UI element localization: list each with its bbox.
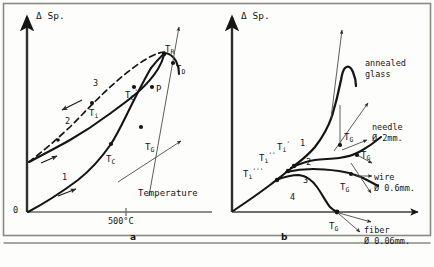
annotation-fiber: fiber Ø 0.06mm. bbox=[364, 225, 410, 246]
marker-a-P bbox=[150, 85, 154, 89]
figure-container: Δ Sp. Temperature 500°C 0 1 2 3 TR TD P … bbox=[0, 0, 434, 267]
panel-a-label-TG: TG bbox=[145, 142, 154, 154]
panel-b-curve-label-1: 1 bbox=[300, 138, 305, 148]
panel-a-label-Ti: Ti bbox=[89, 108, 98, 120]
panel-a-label-TC-sub: C bbox=[111, 158, 115, 166]
marker-a-Ti bbox=[90, 101, 94, 105]
annotation-wire: wire Ø 0.6mm. bbox=[374, 172, 415, 193]
marker-a-TD bbox=[171, 61, 175, 65]
panel-a-xtick-500c: 500°C bbox=[108, 216, 134, 226]
panel-b-label-TG-wire-sub: G bbox=[345, 186, 349, 194]
panel-b-label-TG-wire: TG bbox=[340, 182, 349, 194]
curve-b-1 bbox=[294, 67, 356, 166]
panel-a-curve-label-1: 1 bbox=[62, 172, 67, 182]
marker-b-Tip bbox=[292, 164, 296, 168]
annotation-wire-line1: wire bbox=[374, 172, 415, 183]
annotation-annealed-glass-line1: annealed bbox=[365, 58, 406, 69]
annotation-needle-line2: Ø 2mm. bbox=[372, 133, 403, 144]
panel-b-label-TG-annealed-sub: G bbox=[349, 136, 353, 144]
panel-a-label-TD: TD bbox=[176, 64, 185, 76]
panel-b-label-Tiprime-primes: ' bbox=[286, 140, 290, 148]
marker-a-TC bbox=[109, 142, 113, 146]
panel-a-curves bbox=[28, 27, 181, 212]
panel-b-curve-label-4: 4 bbox=[290, 192, 295, 202]
marker-b-TG-wire bbox=[349, 172, 353, 176]
annotation-fiber-line2: Ø 0.06mm. bbox=[364, 236, 410, 247]
annotation-fiber-line1: fiber bbox=[364, 225, 410, 236]
panel-a-label-TCprime: TC' bbox=[125, 88, 138, 102]
annotation-annealed-glass: annealed glass bbox=[365, 58, 406, 79]
callout-wire-b bbox=[351, 163, 371, 193]
panel-b-label-Tidoubleprime: Ti'' bbox=[259, 151, 276, 165]
annotation-needle-line1: needle bbox=[372, 122, 403, 133]
panel-a-label-TCprime-primes: ' bbox=[134, 88, 138, 96]
panel-a-label-P-base: P bbox=[156, 84, 161, 94]
panel-a-axes bbox=[27, 17, 212, 216]
panel-b-label-Tiprime: Ti' bbox=[277, 140, 290, 154]
annotation-needle: needle Ø 2mm. bbox=[372, 122, 403, 143]
panel-a-x-axis-label: Temperature bbox=[138, 188, 198, 198]
panel-a-y-axis-label: Δ Sp. bbox=[36, 10, 65, 21]
marker-b-TG-annealed bbox=[338, 143, 342, 147]
marker-a-curve2-tick bbox=[56, 138, 60, 142]
marker-b-TG-needle bbox=[355, 153, 359, 157]
panel-a-curve-label-2: 2 bbox=[65, 116, 70, 126]
panel-a-label-Ti-sub: i bbox=[94, 112, 98, 120]
callout-fiber-b bbox=[339, 214, 360, 232]
annotation-annealed-glass-line2: glass bbox=[365, 69, 406, 80]
marker-b-TG-fiber bbox=[335, 210, 340, 215]
panel-b-letter: b bbox=[281, 232, 287, 242]
panel-b-y-axis-label: Δ Sp. bbox=[241, 10, 270, 21]
panel-b-label-Tidoubleprime-primes: '' bbox=[268, 151, 275, 159]
panel-a-label-TD-sub: D bbox=[181, 68, 185, 76]
panel-b-label-TG-needle-sub: G bbox=[366, 154, 370, 162]
panel-a-curve-label-3: 3 bbox=[93, 78, 98, 88]
annotation-wire-line2: Ø 0.6mm. bbox=[374, 183, 415, 194]
panel-b-extrapolation-arrow bbox=[331, 30, 342, 118]
callout-fiber-a bbox=[339, 213, 371, 222]
panel-b-label-TG-fiber: TG bbox=[329, 221, 338, 233]
panel-b-curve-label-3: 3 bbox=[303, 175, 308, 185]
panel-a-letter: a bbox=[130, 232, 136, 242]
panel-b-label-Titripleprime: Ti''' bbox=[243, 167, 263, 181]
panel-a-label-TR-sub: R bbox=[170, 48, 174, 56]
panel-b-label-Titripleprime-primes: ''' bbox=[252, 167, 263, 175]
panel-b-label-TG-needle: TG bbox=[361, 150, 370, 162]
panel-b-label-TG-fiber-sub: G bbox=[334, 225, 338, 233]
panel-a-markers bbox=[56, 52, 175, 146]
marker-a-TG bbox=[139, 125, 143, 129]
panel-a-label-TR: TR bbox=[165, 44, 174, 56]
marker-b-Tipp bbox=[286, 169, 290, 173]
panel-b-curve-label-2: 2 bbox=[306, 157, 311, 167]
panel-b-label-TG-annealed: TG bbox=[344, 132, 353, 144]
panel-a-origin-label: 0 bbox=[13, 205, 18, 215]
marker-b-Tippp bbox=[275, 178, 279, 182]
panel-a-label-TC: TC bbox=[106, 154, 115, 166]
panel-a-label-P: P bbox=[156, 84, 161, 94]
panel-a-label-TG-sub: G bbox=[150, 146, 154, 154]
